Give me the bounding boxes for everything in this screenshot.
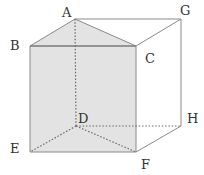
vertex-label-C: C <box>145 51 155 66</box>
edge-CG <box>136 19 181 46</box>
shaded-face-front <box>30 46 136 152</box>
vertex-label-E: E <box>10 141 20 156</box>
edge-HF <box>136 126 181 152</box>
prism-diagram: A G B C D H E F <box>0 0 204 175</box>
vertex-label-H: H <box>187 111 198 126</box>
vertex-label-D: D <box>78 111 88 126</box>
vertex-label-F: F <box>141 157 150 172</box>
vertex-label-A: A <box>61 5 72 20</box>
vertex-label-B: B <box>10 38 20 53</box>
vertex-label-G: G <box>180 3 190 18</box>
